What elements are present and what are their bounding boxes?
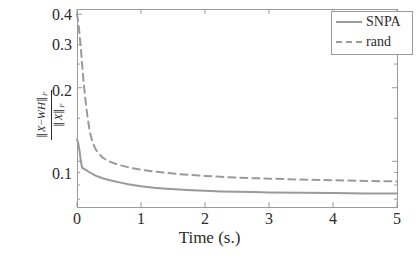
legend-line-solid-icon: [336, 17, 362, 27]
legend-entry-snpa: SNPA: [332, 12, 412, 32]
y-tick-label-1: 0.3: [32, 36, 72, 54]
legend-label-rand: rand: [366, 35, 391, 49]
x-tick-label-5: 5: [382, 210, 412, 228]
x-tick-label-0: 0: [62, 210, 92, 228]
y-axis-title-denominator: ∥X∥F: [51, 90, 66, 140]
legend-label-snpa: SNPA: [366, 15, 401, 29]
x-tick-label-4: 4: [318, 210, 348, 228]
y-axis-title: ∥X−WH∥F ∥X∥F: [0, 60, 106, 170]
y-axis-title-numerator: ∥X−WH∥F: [36, 90, 50, 140]
y-axis-title-fraction: ∥X−WH∥F ∥X∥F: [36, 90, 66, 140]
x-tick-label-1: 1: [126, 210, 156, 228]
legend: SNPA rand: [331, 11, 413, 55]
x-tick-label-3: 3: [254, 210, 284, 228]
x-axis-title: Time (s.): [0, 228, 419, 248]
y-tick-label-0: 0.4: [32, 6, 72, 24]
figure-container: 0.4 0.3 0.2 0.1 0 1 2 3 4 5 Time (s.) ∥X…: [0, 0, 419, 270]
legend-line-dashed-icon: [336, 37, 362, 47]
legend-entry-rand: rand: [332, 32, 412, 52]
x-tick-label-2: 2: [190, 210, 220, 228]
